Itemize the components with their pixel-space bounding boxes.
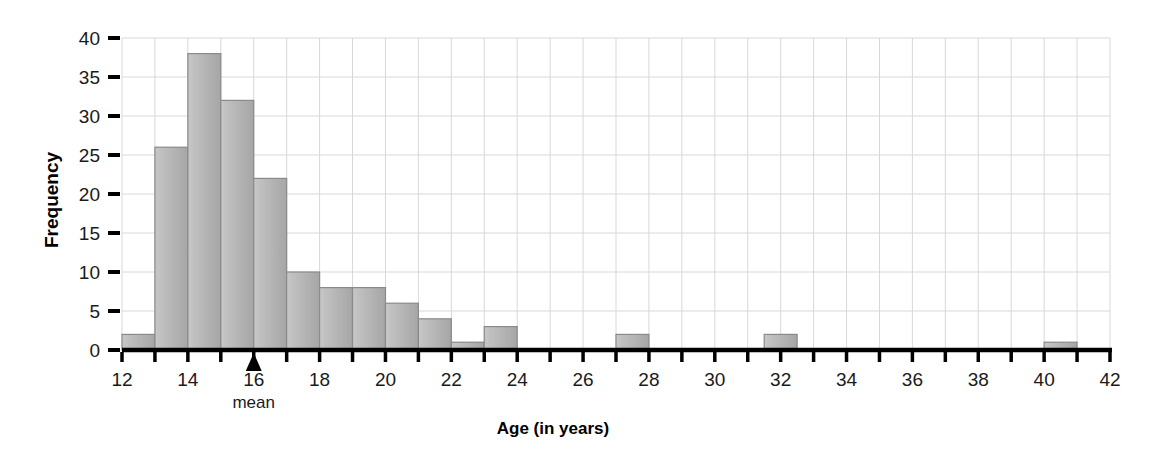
x-tick-label: 20 bbox=[375, 369, 396, 390]
x-tick-label: 32 bbox=[770, 369, 791, 390]
bar-rect bbox=[385, 303, 418, 350]
bar bbox=[122, 334, 155, 350]
x-tick-label: 30 bbox=[704, 369, 725, 390]
bar-rect bbox=[221, 100, 254, 350]
chart-canvas: 12141618202224262830323436384042 0510152… bbox=[0, 0, 1165, 460]
bar-rect bbox=[254, 178, 287, 350]
bar-rect bbox=[320, 288, 353, 350]
x-tick-label: 36 bbox=[902, 369, 923, 390]
bar bbox=[353, 288, 386, 350]
bar-rect bbox=[122, 334, 155, 350]
x-tick-labels: 12141618202224262830323436384042 bbox=[111, 369, 1120, 390]
x-tick-label: 12 bbox=[111, 369, 132, 390]
y-tick-label: 30 bbox=[79, 106, 100, 127]
y-tick-label: 0 bbox=[89, 340, 100, 361]
bar bbox=[484, 327, 517, 350]
bar bbox=[287, 272, 320, 350]
mean-triangle-icon bbox=[246, 353, 262, 371]
bars-group bbox=[122, 54, 1077, 350]
bar bbox=[616, 334, 649, 350]
bar-rect bbox=[353, 288, 386, 350]
bar bbox=[418, 319, 451, 350]
y-tick-label: 25 bbox=[79, 145, 100, 166]
x-tick-label: 22 bbox=[441, 369, 462, 390]
x-tick-label: 34 bbox=[836, 369, 858, 390]
x-tick-label: 42 bbox=[1099, 369, 1120, 390]
histogram-chart: 12141618202224262830323436384042 0510152… bbox=[0, 0, 1165, 460]
mean-label: mean bbox=[232, 393, 275, 412]
x-axis-title: Age (in years) bbox=[497, 419, 609, 438]
y-tick-label: 40 bbox=[79, 28, 100, 49]
bar-rect bbox=[418, 319, 451, 350]
bar-rect bbox=[616, 334, 649, 350]
bar bbox=[221, 100, 254, 350]
x-tick-label: 18 bbox=[309, 369, 330, 390]
bar-rect bbox=[484, 327, 517, 350]
y-tick-label: 20 bbox=[79, 184, 100, 205]
y-tick-labels: 0510152025303540 bbox=[79, 28, 100, 361]
bar-rect bbox=[287, 272, 320, 350]
y-tick-label: 5 bbox=[89, 301, 100, 322]
y-tick-label: 35 bbox=[79, 67, 100, 88]
bar bbox=[155, 147, 188, 350]
bar bbox=[254, 178, 287, 350]
y-axis-title: Frequency bbox=[41, 152, 62, 249]
y-tick-label: 15 bbox=[79, 223, 100, 244]
bar-rect bbox=[155, 147, 188, 350]
y-tick-label: 10 bbox=[79, 262, 100, 283]
x-tick-label: 16 bbox=[243, 369, 264, 390]
bar-rect bbox=[764, 334, 797, 350]
x-tick-label: 38 bbox=[968, 369, 989, 390]
bar bbox=[320, 288, 353, 350]
x-tick-label: 14 bbox=[177, 369, 199, 390]
x-tick-label: 26 bbox=[572, 369, 593, 390]
x-tick-label: 28 bbox=[638, 369, 659, 390]
x-tick-label: 40 bbox=[1034, 369, 1055, 390]
x-tick-label: 24 bbox=[507, 369, 529, 390]
bar-rect bbox=[188, 54, 221, 350]
bar bbox=[188, 54, 221, 350]
bar bbox=[385, 303, 418, 350]
bar bbox=[764, 334, 797, 350]
